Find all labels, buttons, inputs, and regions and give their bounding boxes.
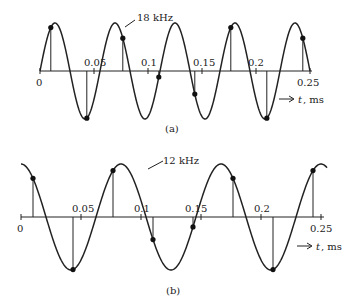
svg-text:, ms: , ms	[303, 94, 324, 105]
tick-label-a-01: 0.1	[141, 57, 157, 68]
sample-point	[156, 74, 161, 79]
tick-label-b-015: 0.15	[185, 203, 207, 214]
signal-label-b: 12 kHz	[148, 155, 199, 169]
tick-label-a-0: 0	[36, 77, 42, 88]
sample-stems-a	[48, 25, 305, 121]
sample-stems-b	[30, 168, 315, 272]
sample-point	[190, 224, 195, 229]
tick-label-b-005: 0.05	[72, 203, 94, 214]
signal-label-a: 18 kHz	[125, 12, 173, 27]
axis-label-a: t , ms	[279, 94, 324, 105]
sample-point	[120, 36, 125, 41]
label-pointer-a	[125, 20, 135, 27]
tick-label-a-015: 0.15	[193, 57, 215, 68]
panel-b: 0 0.05 0.1 0.15 0.2 0.25 12 kHz t , ms (…	[17, 155, 342, 296]
sample-point	[270, 267, 275, 272]
svg-text:, ms: , ms	[321, 241, 342, 252]
tick-label-a-025: 0.25	[297, 77, 319, 88]
sample-point	[192, 92, 197, 97]
sample-point	[230, 176, 235, 181]
sample-point	[150, 237, 155, 242]
sample-point	[300, 36, 305, 41]
svg-text:12 kHz: 12 kHz	[163, 155, 199, 166]
tick-label-b-025: 0.25	[310, 223, 332, 234]
axis-label-b: t , ms	[297, 241, 342, 252]
sample-point	[48, 25, 53, 30]
caption-b: (b)	[166, 285, 180, 296]
caption-a: (a)	[165, 123, 179, 134]
tick-label-a-02: 0.2	[248, 57, 264, 68]
sample-point	[84, 116, 89, 121]
sample-point	[228, 25, 233, 30]
tick-label-b-02: 0.2	[254, 203, 270, 214]
label-pointer-b	[148, 161, 163, 169]
sample-point	[30, 176, 35, 181]
sample-point	[310, 168, 315, 173]
sample-point	[70, 267, 75, 272]
sampling-diagram: 0 0.05 0.1 0.15 0.2 0.25 18 kHz t , ms (…	[0, 0, 356, 301]
sample-point	[110, 168, 115, 173]
panel-a: 0 0.05 0.1 0.15 0.2 0.25 18 kHz t , ms (…	[36, 12, 324, 134]
sample-point	[264, 116, 269, 121]
svg-text:18 kHz: 18 kHz	[137, 12, 173, 23]
tick-label-b-0: 0	[17, 223, 23, 234]
